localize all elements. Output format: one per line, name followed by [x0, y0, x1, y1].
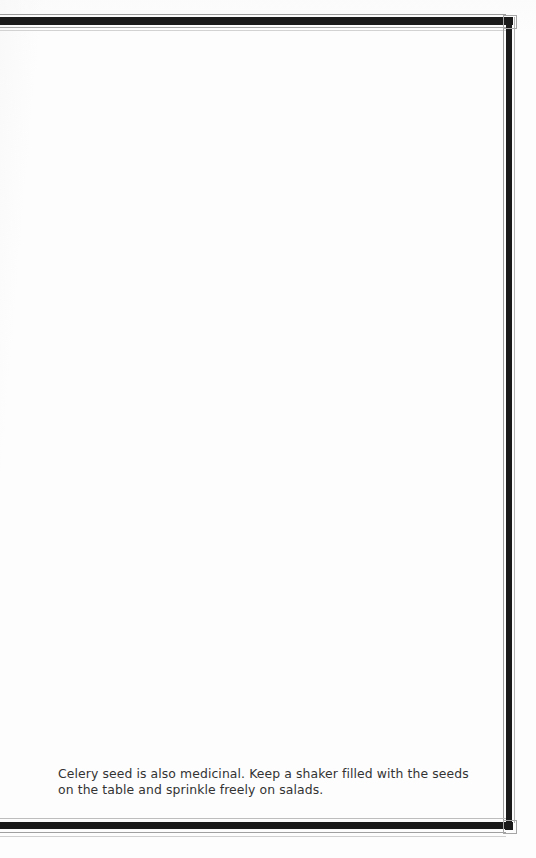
top-border-hairline-lower: [0, 27, 506, 28]
bottom-border-hairline-upper: [0, 818, 506, 819]
bottom-border-hairline-lower: [0, 832, 506, 833]
top-border-thick-rule: [0, 17, 506, 25]
right-border-thick-rule: [506, 25, 512, 823]
scanned-page: Celery seed is also medicinal. Keep a sh…: [0, 0, 536, 858]
top-border-hairline-lower-secondary: [0, 30, 506, 31]
bottom-border-thick-rule: [0, 822, 506, 829]
top-right-corner-mark: [505, 17, 513, 25]
right-border-hairline-inner: [514, 17, 515, 823]
body-paragraph: Celery seed is also medicinal. Keep a sh…: [58, 766, 478, 798]
paper-grain-overlay: [0, 0, 536, 858]
bottom-right-corner-mark: [505, 822, 513, 830]
top-border-hairline-upper: [0, 14, 506, 15]
right-border-hairline-outer: [503, 17, 504, 823]
bottom-border-hairline-lower-secondary: [0, 836, 506, 837]
